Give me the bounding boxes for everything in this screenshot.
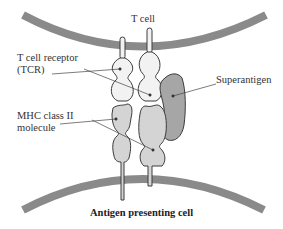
label-tcr-line1: T cell receptor [17, 52, 78, 64]
label-t-cell: T cell [131, 13, 155, 25]
label-tcr-line2: (TCR) [17, 64, 44, 76]
label-mhc-line2: molecule [17, 122, 55, 134]
mhc-right [139, 105, 167, 186]
tcr-right [138, 28, 162, 101]
label-antigen-presenting-cell: Antigen presenting cell [90, 207, 193, 219]
apc-membrane [23, 179, 264, 210]
label-mhc-line1: MHC class II [17, 110, 74, 122]
label-superantigen: Superantigen [216, 74, 271, 86]
